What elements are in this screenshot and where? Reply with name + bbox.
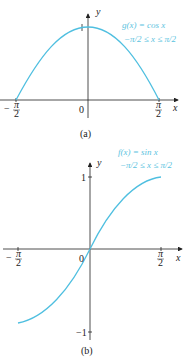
y-axis-label: y [96,157,102,168]
x-axis-label: x [175,252,181,263]
y-tick-1: 1 [81,172,86,183]
function-label-g: g(x) = cos x [122,20,165,30]
origin-label: 0 [79,104,84,115]
figure-a: y x 0 − π 2 π 2 g(x) = cos x −π/2 ≤ x ≤ … [0,6,178,140]
domain-label-a: −π/2 ≤ x ≤ π/2 [124,34,176,44]
y-tick-neg-1: −1 [76,327,87,338]
caption-b: (b) [81,345,93,357]
function-label-f: f(x) = sin x [118,147,158,157]
svg-text:2: 2 [158,257,163,268]
caption-a: (a) [80,128,91,140]
domain-label-b: −π/2 ≤ x ≤ π/2 [120,160,172,170]
y-axis-label: y [95,6,101,17]
svg-text:2: 2 [156,108,161,119]
x-tick-neg-pi-2: − [6,252,12,263]
svg-text:2: 2 [16,257,21,268]
figure-b: y x 0 1 −1 − π 2 π 2 f(x) = sin x −π/2 ≤… [3,147,182,357]
origin-label: 0 [79,253,84,264]
x-tick-neg-pi-2: − [4,103,10,114]
figure-canvas: y x 0 − π 2 π 2 g(x) = cos x −π/2 ≤ x ≤ … [0,0,190,362]
x-axis-label: x [172,102,178,113]
sin-curve [18,177,161,323]
svg-text:2: 2 [14,108,19,119]
